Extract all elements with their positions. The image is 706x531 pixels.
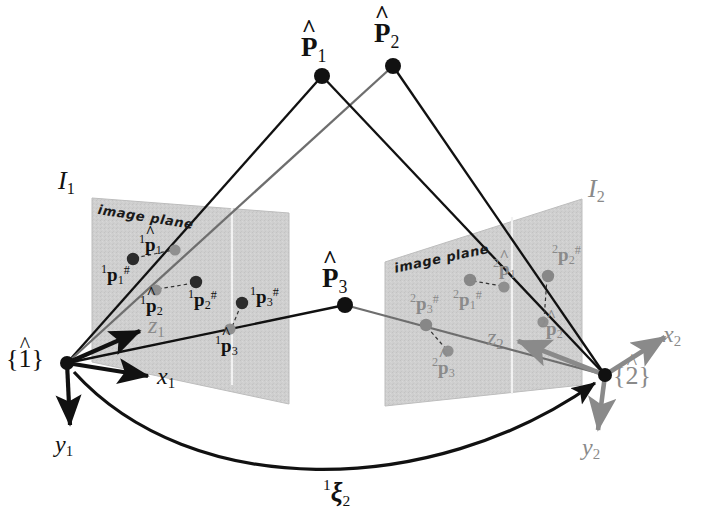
- world-point-P3-label: ^P3: [322, 265, 347, 297]
- point-2p3-hash-dot: [420, 319, 432, 331]
- hat-accent-icon: ^: [323, 248, 337, 273]
- axis-label-x2: x2: [663, 322, 681, 349]
- label-2p1-hat: 2^p1: [493, 257, 516, 280]
- I2-base: I: [588, 174, 597, 203]
- axis-y1-arrow: [67, 363, 70, 425]
- pose-superscript: 1: [323, 476, 331, 493]
- label-1p3-hat: 1^p3: [215, 334, 238, 357]
- axis-label-z1: z1: [148, 313, 165, 340]
- right-frame-label: {^2}: [613, 363, 651, 389]
- right-camera-origin-dot: [598, 368, 612, 382]
- label-2p2-hat: 2^p2: [540, 317, 563, 340]
- hat-accent-icon: ^: [546, 308, 556, 324]
- point-2p1-hash-dot: [464, 274, 476, 286]
- hat-accent-icon: ^: [438, 347, 448, 363]
- hat-accent-icon: ^: [20, 334, 30, 356]
- world-point-P2-label: ^P2: [374, 20, 399, 52]
- point-1p3-hash-dot: [236, 297, 248, 309]
- I2-sub: 2: [597, 188, 605, 205]
- axis-y2-arrow: [598, 375, 605, 430]
- hat-accent-icon: ^: [375, 3, 389, 28]
- point-2p2-hash-dot: [542, 270, 554, 282]
- left-camera-origin-dot: [60, 356, 74, 370]
- hat-accent-icon: ^: [627, 351, 637, 373]
- figure-canvas: ^P1 ^P2 ^P3 I1 I2 image plane image plan…: [0, 0, 706, 531]
- label-1p3-hash: 1p3#: [250, 285, 279, 308]
- label-1p1-hash: 1p1#: [101, 263, 130, 286]
- world-point-P1-dot: [314, 68, 330, 84]
- axis-label-y2: y2: [582, 435, 600, 462]
- label-2p1-hash: 2p1#: [453, 288, 482, 311]
- left-frame-label: {^1}: [6, 346, 44, 372]
- axis-label-y1: y1: [55, 432, 73, 459]
- axis-label-z2: z2: [487, 325, 504, 352]
- world-point-P3-dot: [337, 297, 353, 313]
- P3-sub: 3: [339, 277, 348, 297]
- label-1p1-hat: 1^p1: [139, 233, 162, 256]
- point-1p1-hat-dot: [169, 244, 180, 255]
- point-2p1-hat-dot: [498, 281, 509, 292]
- label-1p2-hash: 1p2#: [188, 288, 217, 311]
- hat-accent-icon: ^: [146, 285, 156, 301]
- relative-pose-label: 1ξ2: [323, 477, 350, 508]
- right-plane-name-label: I2: [588, 176, 605, 205]
- pose-subscript: 2: [343, 492, 351, 509]
- hat-accent-icon: ^: [221, 325, 231, 341]
- left-plane-name-label: I1: [58, 168, 75, 197]
- hat-accent-icon: ^: [145, 224, 155, 240]
- label-2p3-hash: 2p3#: [410, 292, 439, 315]
- label-2p2-hash: 2p2#: [552, 243, 581, 266]
- I1-sub: 1: [67, 180, 75, 197]
- pose-symbol: ξ: [331, 478, 343, 507]
- P2-sub: 2: [391, 32, 400, 52]
- hat-accent-icon: ^: [499, 248, 509, 264]
- world-point-P2-dot: [385, 58, 401, 74]
- I1-base: I: [58, 166, 67, 195]
- label-2p3-hat: 2^p3: [432, 356, 455, 379]
- P1-sub: 1: [318, 46, 327, 66]
- hat-accent-icon: ^: [302, 17, 316, 42]
- world-point-P1-label: ^P1: [301, 34, 326, 66]
- axis-label-x1: x1: [157, 364, 175, 391]
